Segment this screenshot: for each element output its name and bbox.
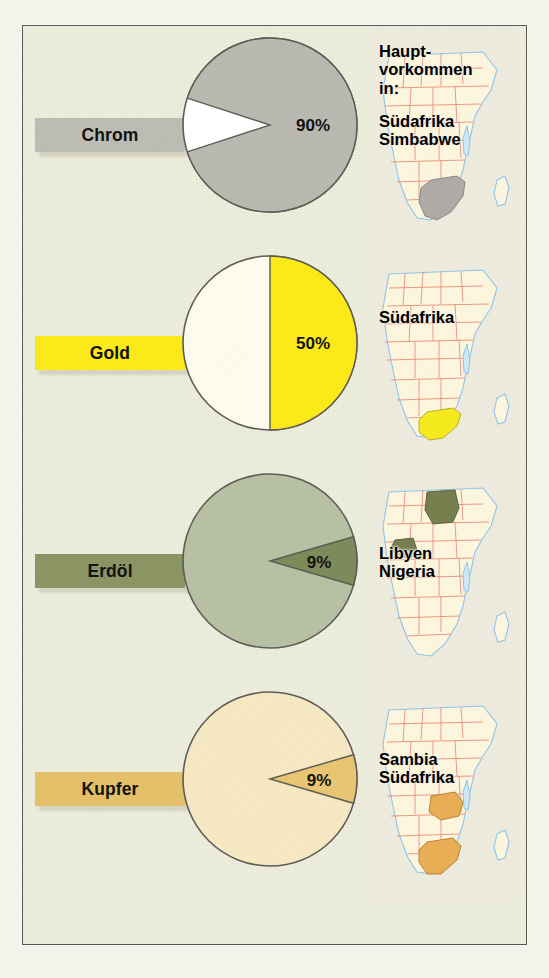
row-kupfer: Kupfer 9% [23, 684, 526, 902]
pie-svg-chrom [179, 34, 361, 216]
africa-map-icon [371, 684, 521, 900]
row-erdoel: Erdöl 9% [23, 466, 526, 684]
pie-chart-chrom[interactable]: 90% [179, 34, 361, 216]
pie-svg-gold [179, 252, 361, 434]
legend-chip-erdoel[interactable]: Erdöl [35, 554, 185, 588]
chip-label-erdoel: Erdöl [35, 554, 185, 588]
pie-svg-kupfer [179, 688, 361, 870]
infographic-poster: Chrom 90% [0, 0, 549, 978]
row-gold: Gold 50% [23, 248, 526, 466]
chip-label-gold: Gold [35, 336, 185, 370]
pie-chart-gold[interactable]: 50% [179, 252, 361, 434]
poster-frame: Chrom 90% [22, 25, 527, 945]
legend-chip-kupfer[interactable]: Kupfer [35, 772, 185, 806]
map-kupfer[interactable]: Sambia Südafrika [371, 684, 521, 900]
map-chrom[interactable]: Haupt- vorkommen in: Südafrika Simbabwe [371, 30, 521, 246]
map-highlight-sambia [429, 792, 463, 820]
map-gold[interactable]: Südafrika [371, 248, 521, 464]
rows-container: Chrom 90% [23, 26, 526, 944]
africa-map-icon [371, 30, 521, 246]
chip-label-kupfer: Kupfer [35, 772, 185, 806]
map-erdoel[interactable]: Libyen Nigeria [371, 466, 521, 682]
chip-label-chrom: Chrom [35, 118, 185, 152]
africa-map-icon [371, 466, 521, 682]
legend-chip-gold[interactable]: Gold [35, 336, 185, 370]
africa-map-icon [371, 248, 521, 464]
map-highlight-libyen [425, 490, 459, 524]
row-chrom: Chrom 90% [23, 30, 526, 248]
pie-chart-kupfer[interactable]: 9% [179, 688, 361, 870]
pie-svg-erdoel [179, 470, 361, 652]
pie-slice-gold [270, 256, 357, 430]
legend-chip-chrom[interactable]: Chrom [35, 118, 185, 152]
pie-chart-erdoel[interactable]: 9% [179, 470, 361, 652]
